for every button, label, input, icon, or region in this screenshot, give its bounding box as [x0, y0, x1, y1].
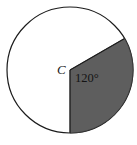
center-label: C [57, 62, 66, 77]
circle-sector-figure: C 120° [0, 0, 137, 145]
angle-label: 120° [75, 71, 99, 85]
figure-svg: C 120° [0, 0, 137, 145]
